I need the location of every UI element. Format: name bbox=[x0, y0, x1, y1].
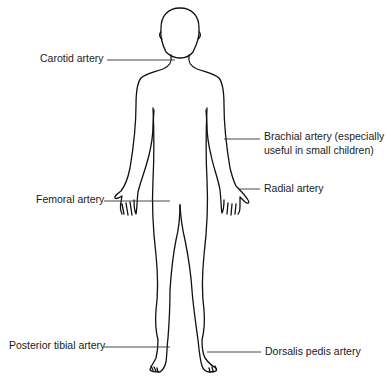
label-carotid-artery: Carotid artery bbox=[40, 52, 104, 64]
label-femoral-artery: Femoral artery bbox=[36, 193, 104, 205]
pulse-points-diagram: Carotid artery Brachial artery (especial… bbox=[0, 0, 388, 383]
label-radial-artery: Radial artery bbox=[264, 182, 324, 194]
label-brachial-artery-line2: useful in small children) bbox=[264, 144, 374, 156]
body-right-side bbox=[189, 55, 249, 215]
body-left-side bbox=[115, 55, 171, 215]
left-torso-line bbox=[150, 108, 180, 372]
right-torso-line bbox=[180, 108, 217, 372]
label-brachial-artery-line1: Brachial artery (especially bbox=[264, 130, 384, 142]
label-posterior-tibial-artery: Posterior tibial artery bbox=[9, 339, 105, 351]
label-dorsalis-pedis-artery: Dorsalis pedis artery bbox=[265, 345, 361, 357]
head-outline bbox=[161, 8, 199, 58]
